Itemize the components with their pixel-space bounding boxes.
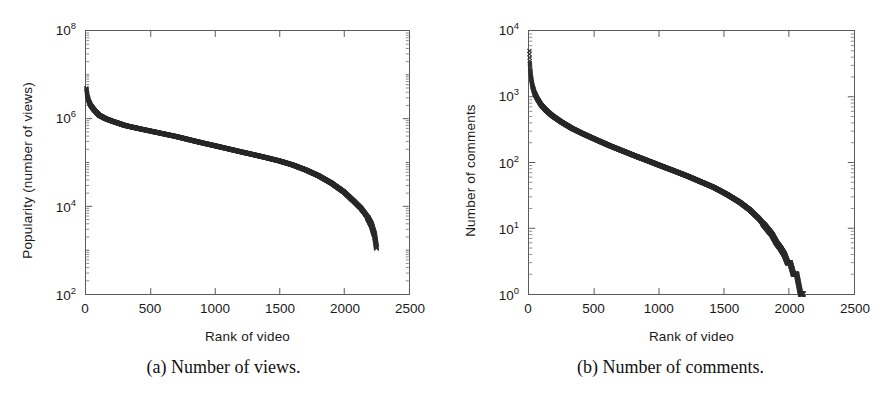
x-tick-label: 2500 — [840, 301, 870, 316]
y-tick-label: 102 — [447, 155, 519, 170]
panel-comments: Number of comments Rank of video (b) Num… — [447, 0, 894, 399]
caption-comments: (b) Number of comments. — [447, 357, 894, 378]
figure-container: Popularity (number of views) Rank of vid… — [0, 0, 894, 399]
x-tick-label: 500 — [139, 301, 162, 316]
y-tick-label: 106 — [0, 111, 76, 126]
y-tick-label: 102 — [0, 288, 76, 303]
x-tick-label: 0 — [81, 301, 89, 316]
y-tick-label: 100 — [447, 288, 519, 303]
caption-views: (a) Number of views. — [0, 357, 447, 378]
x-tick-label: 1500 — [709, 301, 739, 316]
views-curve-svg — [86, 31, 409, 294]
comments-curve-svg — [529, 31, 854, 294]
x-tick-label: 0 — [524, 301, 532, 316]
x-tick-label: 2000 — [330, 301, 360, 316]
panel-views: Popularity (number of views) Rank of vid… — [0, 0, 447, 399]
y-tick-label: 103 — [447, 89, 519, 104]
x-tick-label: 1000 — [200, 301, 230, 316]
x-tick-label: 1000 — [644, 301, 674, 316]
y-tick-label: 108 — [0, 23, 76, 38]
x-tick-label: 500 — [582, 301, 605, 316]
y-tick-label: 104 — [0, 199, 76, 214]
x-tick-label: 2500 — [395, 301, 425, 316]
plot-area-views — [85, 30, 410, 295]
plot-area-comments — [528, 30, 855, 295]
y-tick-label: 104 — [447, 23, 519, 38]
x-tick-label: 1500 — [265, 301, 295, 316]
y-tick-label: 101 — [447, 221, 519, 236]
x-axis-label-comments: Rank of video — [528, 329, 855, 344]
x-tick-label: 2000 — [775, 301, 805, 316]
x-axis-label-views: Rank of video — [85, 329, 410, 344]
